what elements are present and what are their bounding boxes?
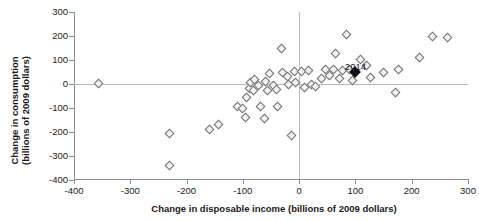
y-axis-tick-label: -300 [32,151,68,161]
x-axis-tick [74,179,75,184]
x-axis-tick-label: -400 [54,185,94,197]
y-axis-title-line1: Change in consumption [9,56,21,165]
x-axis-tick [355,179,356,184]
plot-area: 2014 [74,12,468,180]
data-point [287,130,297,140]
data-point [242,93,252,103]
data-point [272,101,282,111]
data-point [342,29,352,39]
y-axis-tick-label: -200 [32,127,68,137]
data-point [94,79,104,89]
data-point [277,44,287,54]
y-axis-tick [69,36,74,37]
y-axis-tick-label: 100 [32,55,68,65]
x-axis-tick-label: -300 [110,185,150,197]
data-point [213,119,223,129]
y-axis-tick [69,156,74,157]
x-axis-tick-label: -200 [167,185,207,197]
y-axis-tick [69,84,74,85]
point-annotation: 2014 [345,61,366,72]
data-point [260,113,270,123]
data-point [443,33,453,43]
data-point [164,129,174,139]
data-point [330,49,340,59]
x-axis-tick [187,179,188,184]
x-axis-tick-label: 0 [279,185,319,197]
y-axis-tick [69,108,74,109]
x-axis-tick [412,179,413,184]
y-axis-title-line2: (billions of 2009 dollars) [20,56,32,165]
data-point [391,88,401,98]
y-axis-tick-label: 300 [32,7,68,17]
x-axis-tick [130,179,131,184]
x-axis-tick-label: 300 [448,185,479,197]
data-point [304,65,314,75]
data-point [366,73,376,83]
y-axis-tick-labels: -400-300-200-1000100200300 [32,12,68,180]
data-point [378,68,388,78]
zero-reference-line-vertical [299,12,300,180]
x-axis-tick-labels: -400-300-200-1000100200300 [74,185,468,199]
y-axis-tick [69,60,74,61]
y-axis-tick-label: -100 [32,103,68,113]
y-axis-line [74,12,75,180]
y-axis-tick-label: 200 [32,31,68,41]
x-axis-tick [243,179,244,184]
x-axis-tick [299,179,300,184]
y-axis-tick [69,132,74,133]
x-axis-tick-label: -100 [223,185,263,197]
data-point [205,125,215,135]
data-point [415,52,425,62]
x-axis-tick [468,179,469,184]
y-axis-tick-label: -400 [32,175,68,185]
y-axis-tick-label: 0 [32,79,68,89]
data-point [255,101,265,111]
x-axis-line [74,179,468,180]
y-axis-tick [69,12,74,13]
data-point [427,32,437,42]
x-axis-title: Change in disposable income (billions of… [74,203,474,214]
data-point [394,64,404,74]
data-point [164,160,174,170]
x-axis-tick-label: 200 [392,185,432,197]
scatter-chart: Change in consumption (billions of 2009 … [0,0,479,221]
x-axis-tick-label: 100 [335,185,375,197]
